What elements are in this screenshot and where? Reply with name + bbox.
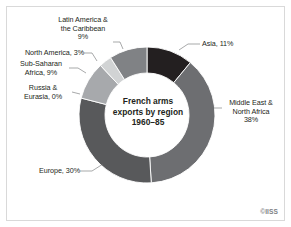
copyright-credit: ©IISS	[260, 208, 278, 215]
slice-label-north-america: North America, 3%	[14, 49, 84, 58]
slice-label-asia: Asia, 11%	[202, 40, 262, 49]
slice-label-sub-saharan-africa: Sub-Saharan Africa, 9%	[12, 60, 70, 77]
center-title-line-1: French arms	[106, 96, 190, 107]
slice-label-europe: Europe, 30%	[20, 167, 80, 176]
slice-label-latin-america-caribbean: Latin America & the Caribbean 9%	[53, 16, 113, 42]
leader-line-russia	[72, 92, 80, 94]
leader-line-asia	[179, 44, 200, 50]
slice-label-russia-eurasia: Russia & Eurasia, 0%	[14, 84, 72, 101]
leader-line-latam	[113, 42, 123, 49]
leader-line-europe	[80, 164, 103, 171]
leader-line-north-america	[84, 53, 97, 61]
center-title-line-3: 1960–85	[106, 117, 190, 128]
slice-label-middle-east-north-africa: Middle East & North Africa 38%	[222, 99, 280, 125]
leader-line-ssa	[69, 68, 86, 73]
chart-figure: Asia, 11% Middle East & North Africa 38%…	[0, 0, 291, 227]
chart-center-title: French arms exports by region 1960–85	[106, 96, 190, 128]
center-title-line-2: exports by region	[106, 107, 190, 118]
